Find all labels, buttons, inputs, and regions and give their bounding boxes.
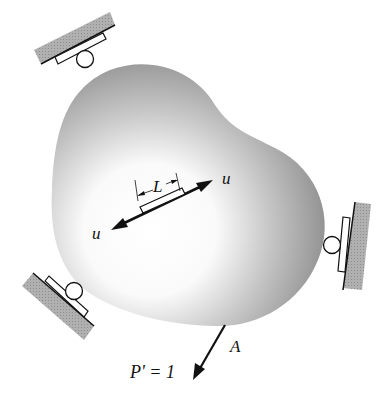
label-point-A: A — [229, 337, 241, 356]
roller-bottom-left — [66, 283, 83, 300]
support-right — [324, 202, 372, 290]
figure-canvas: L u u A P' = 1 — [0, 0, 384, 394]
load-arrowhead — [193, 363, 205, 380]
load-arrow-group — [193, 325, 225, 380]
support-top-left — [34, 12, 115, 68]
label-load: P' = 1 — [129, 362, 175, 382]
label-u-bottom: u — [92, 224, 101, 243]
roller-right — [324, 237, 341, 254]
roller-top — [77, 51, 94, 68]
label-u-top: u — [222, 169, 231, 188]
structural-diagram: L u u A P' = 1 — [0, 0, 384, 394]
label-L: L — [152, 177, 162, 196]
elastic-body — [52, 64, 325, 326]
load-arrow-shaft — [199, 325, 225, 370]
